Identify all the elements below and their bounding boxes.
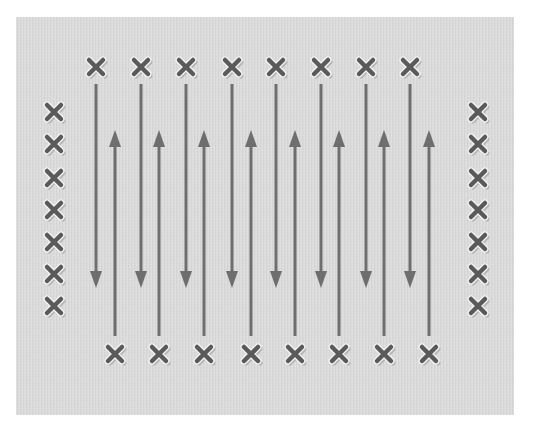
up-arrow-4 <box>245 130 257 336</box>
bottom-marker-4 <box>244 347 260 363</box>
down-arrow-4-head-icon <box>226 271 238 288</box>
up-arrow-8-head-icon <box>423 130 435 147</box>
up-arrow-1-head-icon <box>109 130 121 147</box>
down-arrow-1-head-icon <box>90 271 102 288</box>
bottom-marker-7 <box>377 347 393 363</box>
right-marker-5 <box>471 235 487 251</box>
up-arrow-3 <box>198 130 210 336</box>
down-arrow-1 <box>90 84 102 288</box>
left-marker-2 <box>47 137 63 153</box>
bottom-marker-3 <box>197 347 213 363</box>
down-arrow-5 <box>270 84 282 288</box>
bottom-marker-5 <box>288 347 304 363</box>
up-arrow-5-head-icon <box>289 130 301 147</box>
left-marker-1 <box>47 105 63 121</box>
right-marker-3 <box>471 171 487 187</box>
left-marker-5 <box>47 235 63 251</box>
left-marker-4 <box>47 203 63 219</box>
down-arrow-8-head-icon <box>404 271 416 288</box>
right-marker-2 <box>471 137 487 153</box>
down-arrow-4 <box>226 84 238 288</box>
up-arrow-2 <box>153 130 165 336</box>
right-marker-7 <box>471 299 487 315</box>
arrows-layer <box>90 84 435 336</box>
scan-pattern-diagram <box>0 0 554 435</box>
top-marker-7 <box>359 60 375 76</box>
top-marker-5 <box>269 60 285 76</box>
up-arrow-3-head-icon <box>198 130 210 147</box>
right-marker-4 <box>471 203 487 219</box>
up-arrow-8 <box>423 130 435 336</box>
left-marker-7 <box>47 299 63 315</box>
up-arrow-6 <box>333 130 345 336</box>
down-arrow-7-head-icon <box>360 271 372 288</box>
up-arrow-1 <box>109 130 121 336</box>
top-marker-1 <box>89 60 105 76</box>
left-marker-6 <box>47 267 63 283</box>
down-arrow-7 <box>360 84 372 288</box>
up-arrow-7-head-icon <box>378 130 390 147</box>
down-arrow-6-head-icon <box>315 271 327 288</box>
up-arrow-7 <box>378 130 390 336</box>
down-arrow-2-head-icon <box>135 271 147 288</box>
left-marker-3 <box>47 171 63 187</box>
top-marker-4 <box>225 60 241 76</box>
top-marker-3 <box>179 60 195 76</box>
down-arrow-2 <box>135 84 147 288</box>
down-arrow-5-head-icon <box>270 271 282 288</box>
bottom-marker-8 <box>422 347 438 363</box>
up-arrow-6-head-icon <box>333 130 345 147</box>
right-marker-6 <box>471 267 487 283</box>
down-arrow-6 <box>315 84 327 288</box>
right-marker-1 <box>471 105 487 121</box>
top-marker-2 <box>134 60 150 76</box>
bottom-marker-1 <box>108 347 124 363</box>
down-arrow-8 <box>404 84 416 288</box>
down-arrow-3-head-icon <box>180 271 192 288</box>
down-arrow-3 <box>180 84 192 288</box>
markers-layer <box>47 60 487 363</box>
bottom-marker-2 <box>152 347 168 363</box>
top-marker-8 <box>403 60 419 76</box>
up-arrow-2-head-icon <box>153 130 165 147</box>
up-arrow-4-head-icon <box>245 130 257 147</box>
top-marker-6 <box>314 60 330 76</box>
bottom-marker-6 <box>332 347 348 363</box>
up-arrow-5 <box>289 130 301 336</box>
